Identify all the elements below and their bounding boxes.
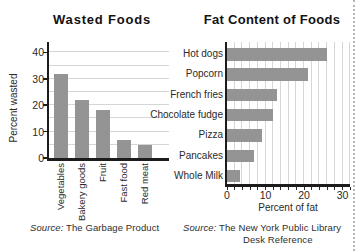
bar-fruit (96, 110, 110, 158)
right-gridline (311, 42, 312, 184)
left-category-label: Bakery goods (75, 163, 89, 221)
left-ytick-label: 40 (16, 46, 44, 58)
right-source-prefix: Source: (183, 222, 216, 233)
left-source-prefix: Source: (30, 222, 63, 233)
bar-french-fries (227, 89, 277, 102)
bar-pancakes (227, 150, 254, 163)
left-ytick-label: 0 (16, 152, 44, 164)
bar-hot-dogs (227, 48, 327, 61)
right-category-label: Popcorn (121, 67, 223, 80)
right-xtick-label: 10 (251, 189, 281, 201)
right-gridline (334, 42, 335, 184)
left-ytick-mark (43, 131, 47, 133)
right-gridline (295, 42, 296, 184)
left-ytick-mark (43, 104, 47, 106)
right-xtick-label: 20 (289, 189, 319, 201)
right-category-label: Pancakes (121, 149, 223, 162)
right-gridline (318, 42, 319, 184)
left-chart-title: Wasted Foods (27, 12, 177, 27)
left-ytick-label: 20 (16, 99, 44, 111)
right-gridline (280, 42, 281, 184)
bar-vegetables (54, 74, 68, 158)
left-gridline (49, 65, 169, 66)
bar-whole-milk (227, 170, 240, 183)
right-category-label: French fries (121, 88, 223, 101)
right-category-label: Pizza (121, 128, 223, 141)
figure: Wasted Foods Percent wasted Source: The … (0, 0, 362, 251)
right-gridline (342, 42, 343, 184)
right-gridline (288, 42, 289, 184)
right-gridline (303, 42, 304, 184)
right-source-text: The New York Public Library (216, 222, 341, 233)
left-source-note: Source: The Garbage Product (30, 222, 159, 234)
left-source-text: The Garbage Product (63, 222, 159, 233)
bar-popcorn (227, 68, 308, 81)
page-edge-dotted-line (353, 0, 355, 251)
right-xtick-label: 0 (212, 189, 242, 201)
left-ytick-mark (43, 157, 47, 159)
right-chart-title: Fat Content of Foods (192, 12, 352, 27)
right-gridline (326, 42, 327, 184)
right-xtick-label: 30 (328, 189, 358, 201)
left-ytick-mark (43, 52, 47, 54)
right-source-note-line1: Source: The New York Public Library (183, 222, 341, 234)
right-plot-area (225, 42, 350, 187)
bar-bakery-goods (75, 100, 89, 158)
left-category-label: Vegetables (54, 163, 68, 221)
left-ytick-label: 10 (16, 126, 44, 138)
left-category-label: Fruit (96, 163, 110, 221)
right-category-label: Chocolate fudge (121, 108, 223, 121)
bar-pizza (227, 129, 262, 142)
right-source-note-line2: Desk Reference (243, 234, 313, 246)
right-category-label: Whole Milk (121, 169, 223, 182)
right-category-label: Hot dogs (121, 47, 223, 60)
right-xtick-mark (319, 187, 320, 190)
left-ytick-mark (43, 78, 47, 80)
right-gridline (349, 42, 350, 184)
right-x-axis-title: Percent of fat (238, 201, 338, 214)
left-ytick-label: 30 (16, 73, 44, 85)
right-xtick-mark (242, 187, 243, 190)
bar-chocolate-fudge (227, 109, 273, 122)
right-xtick-mark (280, 187, 281, 190)
